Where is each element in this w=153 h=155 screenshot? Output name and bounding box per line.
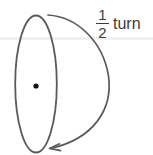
turn-unit-text: turn (113, 16, 141, 32)
turn-label: 1 2 turn (96, 7, 141, 40)
fraction-numerator: 1 (96, 7, 108, 22)
fraction-denominator: 2 (96, 25, 108, 40)
center-dot-icon (33, 83, 38, 88)
figure-root: 1 2 turn (0, 0, 153, 155)
half-fraction: 1 2 (96, 7, 109, 40)
